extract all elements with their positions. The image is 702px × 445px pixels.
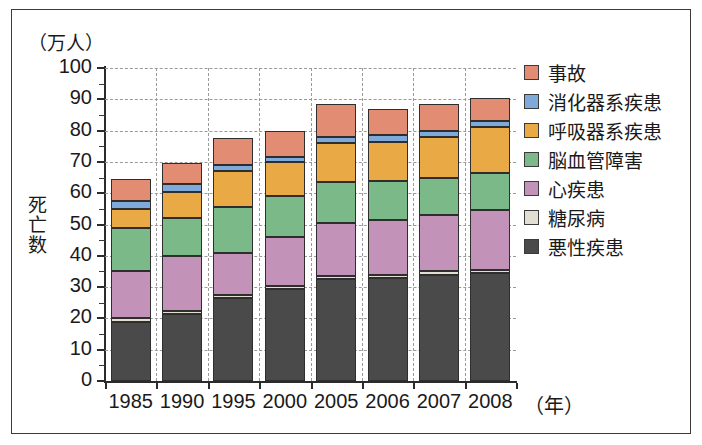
y-axis-tick-label: 70 (34, 149, 92, 172)
legend-label: 事故 (548, 59, 586, 86)
y-axis-unit-label: （万人） (28, 28, 104, 55)
bar-segment[interactable] (213, 138, 253, 165)
bar-segment[interactable] (316, 182, 356, 223)
gridline (413, 68, 414, 381)
bar-segment[interactable] (265, 157, 305, 162)
bar-segment[interactable] (470, 210, 510, 269)
bar-segment[interactable] (316, 276, 356, 279)
bar-segment[interactable] (316, 143, 356, 182)
bar-segment[interactable] (213, 253, 253, 295)
legend-label: 心疾患 (548, 175, 605, 202)
bar-segment[interactable] (368, 278, 408, 381)
bar-segment[interactable] (265, 237, 305, 286)
bar-segment[interactable] (162, 314, 202, 381)
chart-legend: 事故消化器系疾患呼吸器系疾患脳血管障害心疾患糖尿病悪性疾患 (524, 58, 662, 261)
y-axis-tick-label: 80 (34, 118, 92, 141)
gridline (362, 68, 363, 381)
bar-segment[interactable] (419, 275, 459, 381)
bar-segment[interactable] (265, 162, 305, 196)
bar-segment[interactable] (162, 256, 202, 311)
stacked-bar[interactable] (470, 98, 510, 381)
x-axis-tick-mark (311, 383, 313, 389)
bar-segment[interactable] (470, 127, 510, 172)
bar-segment[interactable] (470, 273, 510, 381)
bar-segment[interactable] (265, 289, 305, 381)
legend-swatch-icon (524, 210, 539, 225)
bar-segment[interactable] (368, 275, 408, 278)
y-axis-tick-label: 40 (34, 243, 92, 266)
bar-segment[interactable] (111, 318, 151, 321)
bar-segment[interactable] (316, 279, 356, 381)
bar-segment[interactable] (213, 207, 253, 252)
bar-segment[interactable] (368, 220, 408, 275)
bar-segment[interactable] (419, 178, 459, 216)
bar-segment[interactable] (265, 286, 305, 289)
bar-segment[interactable] (111, 209, 151, 228)
bar-segment[interactable] (419, 271, 459, 274)
legend-item[interactable]: 悪性疾患 (524, 232, 662, 261)
bar-segment[interactable] (111, 228, 151, 272)
bar-segment[interactable] (470, 173, 510, 211)
legend-item[interactable]: 事故 (524, 58, 662, 87)
stacked-bar[interactable] (213, 138, 253, 381)
x-axis-tick-mark (413, 383, 415, 389)
bar-segment[interactable] (111, 271, 151, 318)
bar-segment[interactable] (419, 137, 459, 178)
legend-item[interactable]: 脳血管障害 (524, 145, 662, 174)
bar-segment[interactable] (368, 135, 408, 141)
x-axis-tick-label: 2005 (314, 390, 359, 413)
legend-swatch-icon (524, 123, 539, 138)
y-axis-tick-label: 20 (34, 305, 92, 328)
x-axis-tick-label: 1995 (211, 390, 256, 413)
stacked-bar[interactable] (316, 104, 356, 381)
bar-segment[interactable] (162, 163, 202, 183)
bar-segment[interactable] (265, 131, 305, 158)
bar-segment[interactable] (419, 104, 459, 131)
chart-figure: （万人） 死亡数 1009080706050403020100 19851990… (0, 0, 702, 445)
bar-segment[interactable] (213, 171, 253, 207)
bar-segment[interactable] (470, 121, 510, 127)
bar-segment[interactable] (368, 109, 408, 136)
bar-segment[interactable] (162, 184, 202, 192)
x-axis-tick-mark (516, 383, 518, 389)
bar-segment[interactable] (470, 98, 510, 121)
legend-item[interactable]: 消化器系疾患 (524, 87, 662, 116)
x-axis-tick-mark (259, 383, 261, 389)
stacked-bar[interactable] (162, 163, 202, 381)
bar-segment[interactable] (419, 131, 459, 137)
x-axis-tick-label: 2000 (263, 390, 308, 413)
plot-area (105, 68, 516, 381)
stacked-bar[interactable] (419, 104, 459, 381)
bar-segment[interactable] (368, 181, 408, 220)
y-axis-tick-label: 90 (34, 86, 92, 109)
stacked-bar[interactable] (368, 109, 408, 381)
bar-segment[interactable] (316, 223, 356, 276)
legend-item[interactable]: 呼吸器系疾患 (524, 116, 662, 145)
bar-segment[interactable] (162, 311, 202, 314)
bar-segment[interactable] (162, 192, 202, 219)
bar-segment[interactable] (111, 201, 151, 209)
bar-segment[interactable] (419, 215, 459, 271)
x-axis-tick-mark (105, 383, 107, 389)
stacked-bar[interactable] (265, 131, 305, 381)
bar-segment[interactable] (213, 298, 253, 381)
legend-label: 消化器系疾患 (548, 88, 662, 115)
bar-segment[interactable] (213, 165, 253, 171)
legend-swatch-icon (524, 65, 539, 80)
legend-item[interactable]: 糖尿病 (524, 203, 662, 232)
bar-segment[interactable] (368, 142, 408, 181)
bar-segment[interactable] (316, 137, 356, 143)
gridline (465, 68, 466, 381)
bar-segment[interactable] (111, 179, 151, 201)
stacked-bar[interactable] (111, 179, 151, 381)
bar-segment[interactable] (213, 295, 253, 298)
bar-segment[interactable] (111, 322, 151, 381)
bar-segment[interactable] (162, 218, 202, 256)
y-axis-tick-label: 100 (34, 55, 92, 78)
x-axis-tick-mark (156, 383, 158, 389)
x-axis-tick-mark (208, 383, 210, 389)
bar-segment[interactable] (470, 270, 510, 273)
bar-segment[interactable] (316, 104, 356, 137)
legend-item[interactable]: 心疾患 (524, 174, 662, 203)
bar-segment[interactable] (265, 196, 305, 237)
